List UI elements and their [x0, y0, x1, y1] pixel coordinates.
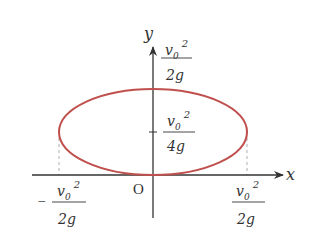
x-axis-label: x — [286, 165, 295, 184]
svg-text:2g: 2g — [57, 211, 76, 227]
origin-label: O — [133, 181, 144, 197]
diagram-canvas: x y O v02 2g v02 4g − v02 2g v02 2g — [0, 0, 318, 238]
label-top-y: v02 2g — [161, 38, 192, 83]
svg-text:v02: v02 — [236, 179, 259, 202]
label-right-x: v02 2g — [232, 179, 265, 227]
svg-text:−: − — [38, 194, 46, 209]
svg-text:4g: 4g — [166, 138, 185, 154]
label-left-x: − v02 2g — [38, 179, 86, 227]
y-axis-label: y — [143, 24, 154, 43]
label-center-y: v02 4g — [163, 109, 195, 154]
svg-text:2g: 2g — [165, 67, 184, 83]
svg-text:2g: 2g — [236, 211, 255, 227]
svg-text:v02: v02 — [167, 109, 190, 132]
svg-text:v02: v02 — [57, 179, 80, 202]
